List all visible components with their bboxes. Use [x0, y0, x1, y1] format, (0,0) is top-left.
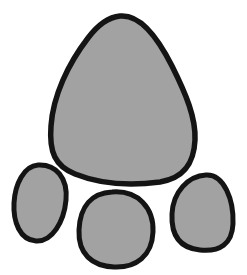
- toe-pad-middle: [79, 192, 153, 267]
- main-pad: [51, 16, 195, 184]
- paw-print-icon: [0, 0, 247, 275]
- toe-pad-right: [172, 175, 233, 250]
- toe-pad-left: [14, 165, 66, 241]
